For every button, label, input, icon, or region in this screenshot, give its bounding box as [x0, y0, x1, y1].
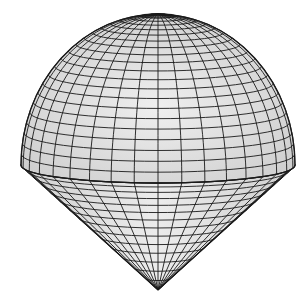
hemisphere-cone-wireframe	[0, 0, 305, 304]
cone-surface	[21, 165, 295, 290]
wireframe-figure	[0, 0, 305, 304]
dome-surface	[21, 14, 295, 184]
